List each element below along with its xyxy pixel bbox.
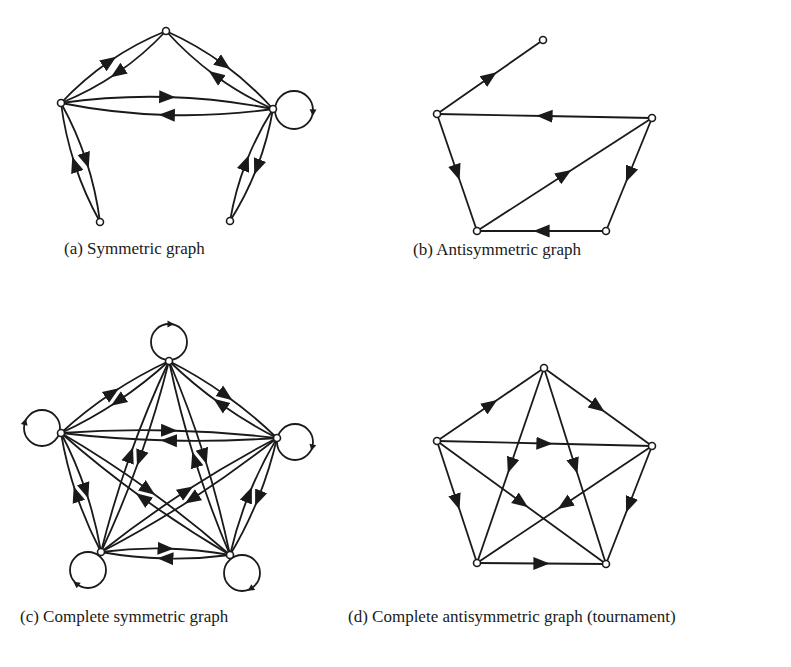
- caption-complete-symmetric-graph: (c) Complete symmetric graph: [20, 607, 228, 627]
- directed-edge: [477, 368, 544, 563]
- tournament-graph: [434, 365, 656, 568]
- graph-vertex: [98, 549, 105, 556]
- graph-vertex: [227, 552, 234, 559]
- graph-vertex: [474, 228, 481, 235]
- graph-vertex: [166, 358, 173, 365]
- graph-vertex: [649, 115, 656, 122]
- directed-edge: [437, 368, 544, 441]
- directed-edge: [477, 446, 652, 563]
- directed-edge: [477, 563, 606, 564]
- directed-edge: [101, 438, 277, 552]
- caption-antisymmetric-graph: (b) Antisymmetric graph: [413, 240, 581, 260]
- directed-edge: [437, 441, 606, 564]
- self-loop: [277, 424, 313, 460]
- directed-edge: [101, 548, 230, 555]
- graph-vertex: [434, 438, 441, 445]
- graph-vertex: [541, 365, 548, 372]
- antisymmetric-graph: [434, 37, 656, 235]
- self-loop: [151, 324, 187, 360]
- directed-edge: [101, 438, 277, 552]
- self-loop: [275, 91, 313, 129]
- directed-edge: [61, 103, 273, 115]
- directed-edge: [61, 97, 273, 109]
- symmetric-graph: [58, 28, 317, 226]
- directed-edge: [230, 109, 273, 221]
- directed-edge: [544, 368, 652, 446]
- directed-edge: [606, 118, 652, 231]
- directed-edge: [230, 109, 273, 221]
- directed-edge: [61, 31, 166, 103]
- directed-edge: [477, 118, 652, 231]
- directed-edge: [437, 114, 477, 231]
- self-loop: [224, 555, 260, 591]
- complete-symmetric-graph: [21, 321, 316, 592]
- graph-vertex: [163, 28, 170, 35]
- directed-edge: [437, 441, 652, 446]
- directed-edge: [61, 31, 166, 103]
- directed-edge: [437, 441, 477, 563]
- directed-edge: [544, 368, 606, 564]
- caption-tournament-graph: (d) Complete antisymmetric graph (tourna…: [348, 607, 676, 627]
- directed-edge: [61, 103, 100, 222]
- directed-edge: [437, 114, 652, 118]
- graph-vertex: [227, 218, 234, 225]
- directed-edge: [61, 103, 100, 222]
- directed-edge: [169, 361, 230, 555]
- arrow-icon: [310, 109, 317, 116]
- graph-vertex: [603, 228, 610, 235]
- graph-vertex: [603, 561, 610, 568]
- graph-vertex: [649, 443, 656, 450]
- graph-vertex: [540, 37, 547, 44]
- graph-vertex: [58, 430, 65, 437]
- graph-vertex: [97, 219, 104, 226]
- graph-vertex: [270, 106, 277, 113]
- arrow-icon: [168, 321, 175, 328]
- graph-vertex: [274, 435, 281, 442]
- directed-edge: [101, 552, 230, 559]
- self-loop: [24, 410, 60, 446]
- directed-edge: [169, 361, 230, 555]
- graph-vertex: [474, 560, 481, 567]
- graph-figure: [0, 0, 791, 667]
- graph-vertex: [434, 111, 441, 118]
- caption-symmetric-graph: (a) Symmetric graph: [64, 239, 205, 259]
- graph-vertex: [58, 100, 65, 107]
- directed-edge: [606, 446, 652, 564]
- directed-edge: [437, 40, 543, 114]
